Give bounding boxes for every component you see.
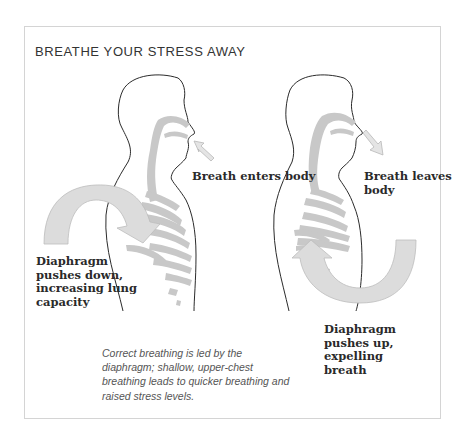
diaphragm-down-line: pushes down, — [36, 269, 137, 283]
breath-leaves-line: body — [364, 184, 452, 198]
diaphragm-up-line: pushes up, — [324, 337, 396, 351]
diaphragm-up-label: Diaphragm pushes up, expelling breath — [324, 323, 396, 377]
breath-leaves-label: Breath leaves body — [364, 170, 452, 197]
breath-enters-label: Breath enters body — [192, 170, 316, 184]
palate-right — [330, 128, 354, 136]
breath-out-arrow — [363, 130, 383, 155]
caption: Correct breathing is led by the diaphrag… — [102, 346, 292, 403]
diaphragm-down-label: Diaphragm pushes down, increasing lung c… — [36, 255, 137, 309]
airway-left — [147, 116, 190, 202]
diaphragm-up-arrow — [292, 240, 416, 303]
diaphragm-down-line: Diaphragm — [36, 255, 137, 269]
diaphragm-up-line: expelling — [324, 350, 396, 364]
palate-left — [164, 131, 188, 139]
breath-in-arrow — [194, 141, 214, 161]
diaphragm-up-line: breath — [324, 364, 396, 378]
diaphragm-up-line: Diaphragm — [324, 323, 396, 337]
diaphragm-down-line: capacity — [36, 296, 137, 310]
diaphragm-down-line: increasing lung — [36, 282, 137, 296]
breath-leaves-line: Breath leaves — [364, 170, 452, 184]
diaphragm-down-arrow — [44, 185, 160, 244]
